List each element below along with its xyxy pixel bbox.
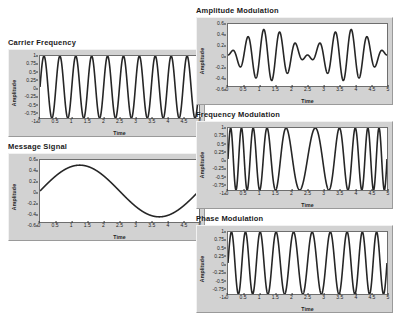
x-tick-label: 0 xyxy=(226,295,229,300)
graph-frame-message-signal[interactable]: Amplitude 0.60.40.20-0.2-0.4-0.6 00.511.… xyxy=(8,153,205,241)
y-tick-label: -0.25 xyxy=(25,94,36,99)
x-axis-label-phase-modulation: Time xyxy=(227,306,388,312)
y-tick-label: 1 xyxy=(33,53,36,58)
plot-area-phase-modulation[interactable] xyxy=(227,231,388,295)
x-tick-label: 4.5 xyxy=(368,295,375,300)
y-axis-ticks-frequency-modulation: 10.750.50.250-0.25-0.5-0.75-1 xyxy=(206,122,226,208)
x-tick-label: 2 xyxy=(290,295,293,300)
x-axis-ticks-amplitude-modulation: 00.511.522.533.544.55 xyxy=(227,85,388,95)
x-tick-label: 4 xyxy=(166,119,169,124)
x-tick-label: 3 xyxy=(322,191,325,196)
x-tick-label: 5 xyxy=(387,295,390,300)
x-tick-label: 0.5 xyxy=(52,119,59,124)
x-tick-label: 4.5 xyxy=(180,119,187,124)
graph-frame-amplitude-modulation[interactable]: Amplitude 0.60.40.20-0.2-0.4-0.6 00.511.… xyxy=(196,17,393,105)
x-tick-label: 4 xyxy=(166,223,169,228)
x-axis-ticks-carrier-frequency: 00.511.522.533.544.55 xyxy=(39,117,200,127)
x-tick-label: 3.5 xyxy=(336,87,343,92)
graph-frame-phase-modulation[interactable]: Amplitude 10.750.50.250-0.25-0.5-0.75-1 … xyxy=(196,225,393,313)
y-axis-ticks-amplitude-modulation: 0.60.40.20-0.2-0.4-0.6 xyxy=(206,18,226,104)
waveform-carrier xyxy=(40,56,199,118)
x-tick-label: 3.5 xyxy=(148,223,155,228)
y-tick-label: 1 xyxy=(221,229,224,234)
waveform-pm xyxy=(228,232,387,294)
y-tick-label: 0 xyxy=(221,54,224,59)
plot-area-frequency-modulation[interactable] xyxy=(227,127,388,191)
x-tick-label: 0 xyxy=(226,87,229,92)
panel-title-phase-modulation: Phase Modulation xyxy=(196,214,393,224)
x-axis-label-frequency-modulation: Time xyxy=(227,202,388,208)
x-tick-label: 4 xyxy=(354,191,357,196)
y-tick-label: 0.5 xyxy=(29,69,36,74)
plot-area-carrier-frequency[interactable] xyxy=(39,55,200,119)
x-tick-label: 2 xyxy=(102,223,105,228)
y-tick-label: -1 xyxy=(220,191,224,196)
y-tick-label: 0.25 xyxy=(214,149,224,154)
x-tick-label: 2 xyxy=(290,87,293,92)
x-tick-label: 2 xyxy=(102,119,105,124)
graph-frame-carrier-frequency[interactable]: Amplitude 10.750.50.250-0.25-0.5-0.75-1 … xyxy=(8,49,205,137)
y-tick-label: 0.75 xyxy=(26,61,36,66)
x-tick-label: 1 xyxy=(70,223,73,228)
x-tick-label: 0 xyxy=(38,223,41,228)
x-tick-label: 3.5 xyxy=(336,191,343,196)
x-tick-label: 0.5 xyxy=(240,295,247,300)
plot-area-amplitude-modulation[interactable] xyxy=(227,23,388,87)
y-tick-label: 0.2 xyxy=(217,43,224,48)
x-tick-label: 1 xyxy=(258,295,261,300)
x-tick-label: 3.5 xyxy=(336,295,343,300)
x-tick-label: 0.5 xyxy=(52,223,59,228)
x-tick-label: 4.5 xyxy=(368,87,375,92)
x-axis-ticks-message-signal: 00.511.522.533.544.55 xyxy=(39,221,200,231)
y-tick-label: 0.4 xyxy=(29,168,36,173)
x-tick-label: 3 xyxy=(322,87,325,92)
panel-amplitude-modulation: Amplitude Modulation Amplitude 0.60.40.2… xyxy=(196,6,393,104)
x-tick-label: 3 xyxy=(322,295,325,300)
panel-title-frequency-modulation: Frequency Modulation xyxy=(196,110,393,120)
x-tick-label: 3.5 xyxy=(148,119,155,124)
x-tick-label: 4 xyxy=(354,87,357,92)
x-tick-label: 1.5 xyxy=(272,87,279,92)
x-tick-label: 0.5 xyxy=(240,191,247,196)
y-tick-label: 0.25 xyxy=(214,253,224,258)
y-tick-label: -0.4 xyxy=(27,212,36,217)
x-tick-label: 2.5 xyxy=(304,191,311,196)
y-tick-label: 0.2 xyxy=(29,179,36,184)
panel-carrier-frequency: Carrier Frequency Amplitude 10.750.50.25… xyxy=(8,38,205,136)
x-tick-label: 0.5 xyxy=(240,87,247,92)
x-tick-label: 1.5 xyxy=(84,119,91,124)
x-tick-label: 2 xyxy=(290,191,293,196)
x-tick-label: 2.5 xyxy=(304,295,311,300)
y-tick-label: -0.2 xyxy=(27,201,36,206)
panel-title-amplitude-modulation: Amplitude Modulation xyxy=(196,6,393,16)
waveform-fm xyxy=(228,128,387,190)
y-tick-label: 0.75 xyxy=(214,133,224,138)
y-tick-label: 0.5 xyxy=(217,245,224,250)
x-tick-label: 5 xyxy=(387,191,390,196)
y-tick-label: 0.6 xyxy=(29,157,36,162)
y-tick-label: -0.5 xyxy=(27,102,36,107)
panel-title-message-signal: Message Signal xyxy=(8,142,205,152)
plot-area-message-signal[interactable] xyxy=(39,159,200,223)
y-tick-label: -0.4 xyxy=(215,76,224,81)
y-tick-label: -1 xyxy=(32,119,36,124)
x-axis-label-carrier-frequency: Time xyxy=(39,130,200,136)
x-tick-label: 4.5 xyxy=(368,191,375,196)
waveform-message xyxy=(40,160,199,222)
x-tick-label: 4 xyxy=(354,295,357,300)
graph-frame-frequency-modulation[interactable]: Amplitude 10.750.50.250-0.25-0.5-0.75-1 … xyxy=(196,121,393,209)
panel-phase-modulation: Phase Modulation Amplitude 10.750.50.250… xyxy=(196,214,393,312)
x-tick-label: 1 xyxy=(258,191,261,196)
y-tick-label: -0.5 xyxy=(215,278,224,283)
y-tick-label: 0 xyxy=(33,190,36,195)
y-tick-label: 0.5 xyxy=(217,141,224,146)
y-tick-label: -0.6 xyxy=(27,223,36,228)
x-tick-label: 2.5 xyxy=(116,119,123,124)
y-tick-label: 0 xyxy=(221,262,224,267)
y-tick-label: 0.75 xyxy=(214,237,224,242)
x-tick-label: 0 xyxy=(226,191,229,196)
y-tick-label: -0.5 xyxy=(215,174,224,179)
x-axis-ticks-frequency-modulation: 00.511.522.533.544.55 xyxy=(227,189,388,199)
x-tick-label: 2.5 xyxy=(304,87,311,92)
y-axis-ticks-carrier-frequency: 10.750.50.250-0.25-0.5-0.75-1 xyxy=(18,50,38,136)
